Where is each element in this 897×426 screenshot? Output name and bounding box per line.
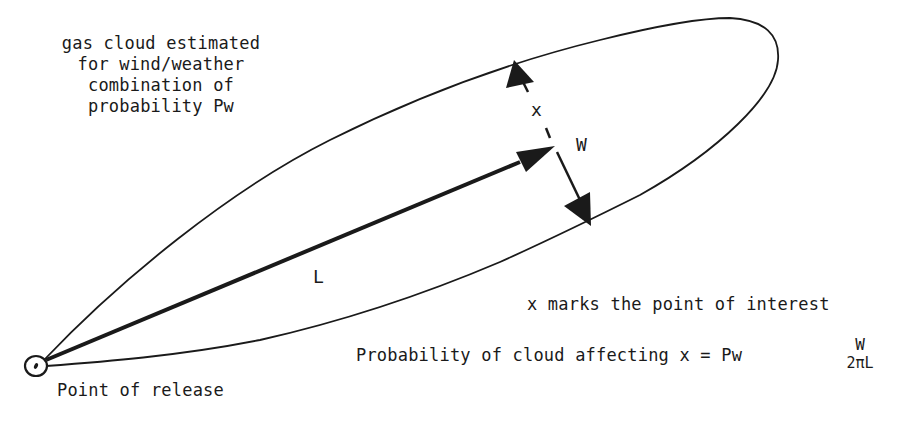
lower-width-arrow-icon <box>557 152 591 226</box>
caption-line: gas cloud estimated <box>48 33 274 54</box>
gas-cloud-caption: gas cloud estimated for wind/weather com… <box>48 33 274 117</box>
wind-direction-arrow-icon <box>46 146 555 360</box>
formula-fraction: W 2πL <box>838 336 882 372</box>
fraction-denominator: 2πL <box>838 354 882 372</box>
release-point-icon <box>25 356 47 376</box>
length-l-label: L <box>313 266 324 287</box>
width-w-label: W <box>576 134 587 155</box>
point-of-release-label: Point of release <box>57 380 224 401</box>
fraction-numerator: W <box>838 336 882 354</box>
caption-line: for wind/weather <box>48 54 274 75</box>
point-of-interest-note: x marks the point of interest <box>527 294 830 315</box>
diagram-canvas: gas cloud estimated for wind/weather com… <box>0 0 897 426</box>
upper-width-arrow-icon <box>506 60 550 138</box>
probability-formula: Probability of cloud affecting x = Pw <box>356 345 742 366</box>
caption-line: probability Pw <box>48 96 274 117</box>
point-x-label: x <box>531 99 542 120</box>
caption-line: combination of <box>48 75 274 96</box>
